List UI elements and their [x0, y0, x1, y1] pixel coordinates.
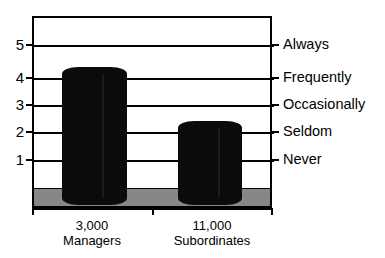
- bar-subordinates: [178, 128, 242, 198]
- right-label-always: Always: [283, 37, 329, 52]
- bar-managers-bottom-ellipse: [62, 191, 127, 205]
- chart-root: 5 4 3 2 1 Always Frequently Occasionally…: [0, 0, 385, 258]
- x-category-subordinates: 11,000 Subordinates: [152, 218, 272, 248]
- ytick-mark-5: [26, 44, 34, 46]
- x-category-managers: 3,000 Managers: [32, 218, 152, 248]
- xtick-middle: [152, 208, 154, 215]
- right-tick-mark-frequently: [271, 77, 279, 79]
- bar-managers-top-ellipse: [62, 67, 127, 81]
- right-tick-mark-occasionally: [271, 104, 279, 106]
- bar-subordinates-highlight: [218, 128, 220, 198]
- ytick-label-2: 2: [2, 124, 24, 139]
- bar-managers: [62, 74, 127, 198]
- x-category-subordinates-value: 11,000: [152, 218, 272, 233]
- x-category-managers-name: Managers: [32, 233, 152, 248]
- ytick-label-5: 5: [2, 37, 24, 52]
- right-tick-mark-never: [271, 159, 279, 161]
- right-label-seldom: Seldom: [283, 124, 332, 139]
- ytick-label-3: 3: [2, 97, 24, 112]
- x-category-subordinates-name: Subordinates: [152, 233, 272, 248]
- gridline-5: [34, 45, 274, 47]
- right-label-frequently: Frequently: [283, 70, 352, 85]
- right-tick-mark-always: [271, 44, 279, 46]
- xtick-left: [32, 208, 34, 215]
- ytick-mark-4: [26, 77, 34, 79]
- right-label-never: Never: [283, 152, 322, 167]
- plot-area: [32, 16, 272, 208]
- ytick-label-4: 4: [2, 70, 24, 85]
- right-label-occasionally: Occasionally: [283, 97, 365, 112]
- ytick-mark-3: [26, 104, 34, 106]
- bar-managers-highlight: [102, 74, 104, 198]
- bar-subordinates-top-ellipse: [178, 121, 242, 135]
- xtick-right: [271, 208, 273, 215]
- ytick-mark-1: [26, 159, 34, 161]
- x-category-managers-value: 3,000: [32, 218, 152, 233]
- ytick-mark-2: [26, 131, 34, 133]
- ytick-label-1: 1: [2, 152, 24, 167]
- right-tick-mark-seldom: [271, 131, 279, 133]
- bar-subordinates-bottom-ellipse: [178, 191, 242, 205]
